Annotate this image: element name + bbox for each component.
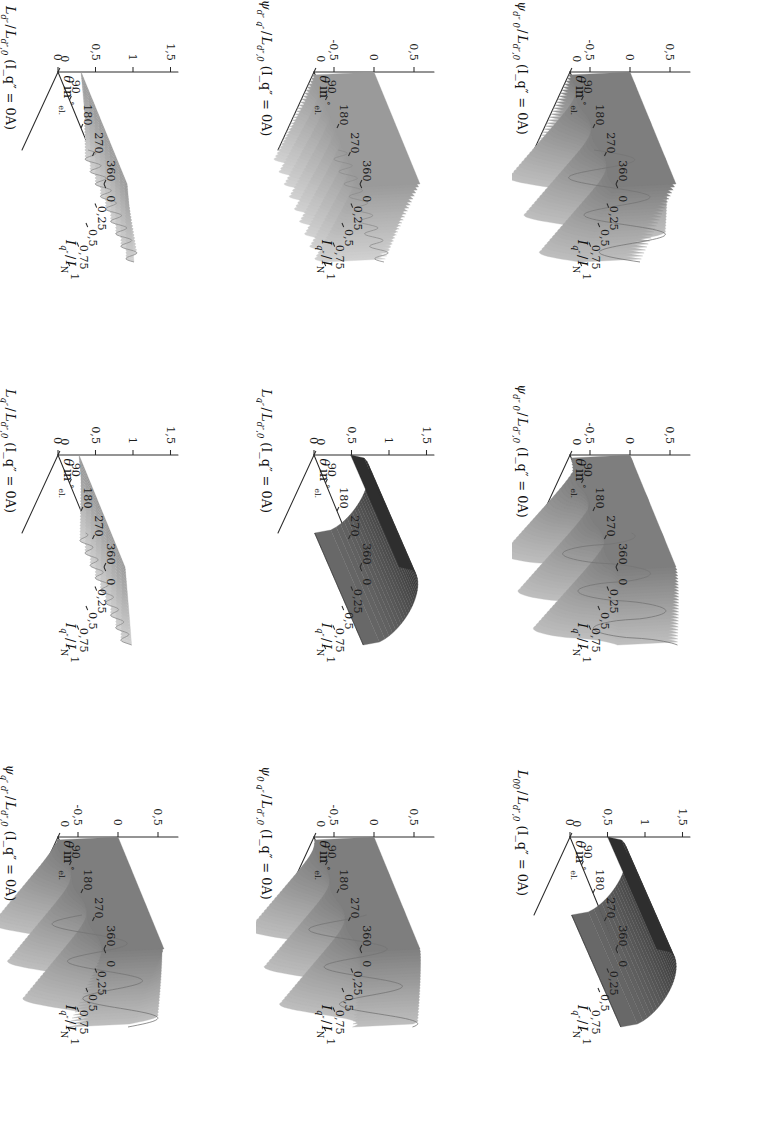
axis-tick-label: 360	[104, 925, 117, 946]
surface-panel-p21: 09018027036000,250,50,751-0,500,5θin°el.…	[256, 0, 512, 383]
axis-tick-label: 1,5	[164, 426, 177, 444]
axis-tick-label: 0,25	[95, 588, 108, 613]
surface-panel-p33: 09018027036000,250,50,751-0,500,5θin°el.…	[0, 765, 256, 1148]
axis-tick-label: 0	[570, 55, 583, 62]
axis-tick-label: 1	[324, 273, 337, 280]
axis-tick-label: 0,25	[607, 588, 620, 613]
axis-tick-label: 0,5	[89, 43, 102, 61]
axis-tick-label: 270	[92, 515, 105, 536]
axis-tick-label: 0	[51, 437, 64, 444]
surface-panel-p13: 09018027036000,250,50,75100,511,5θin°el.…	[512, 765, 768, 1148]
current-tick	[598, 988, 600, 992]
axis-tick-label: 0,5	[407, 809, 420, 827]
surface-panel-container-p22: 09018027036000,250,50,75100,511,5θin°el.…	[256, 383, 512, 766]
surface-mesh	[256, 837, 421, 1027]
axis-tick-label: 0,5	[407, 43, 420, 61]
axis-tick-label: 0	[58, 821, 71, 828]
axis-tick-label: 0	[360, 961, 373, 968]
axis-tick-label: 0	[104, 961, 117, 968]
surface-plot-grid: 09018027036000,250,50,751-0,500,5θin°el.…	[0, 0, 768, 1148]
axis-tick-label: 360	[360, 925, 373, 946]
axis-tick-label: 180	[593, 104, 606, 125]
z-axis-label: ψq″ d″/Ld″,0(I_q″ = 0A)	[0, 765, 18, 901]
axis-tick-label: 1	[68, 656, 81, 663]
axis-tick-label: -0,5	[327, 39, 340, 61]
surface-panel-container-p12: 09018027036000,250,50,751-0,500,5θin°el.…	[512, 383, 768, 766]
axis-tick-label: 1	[68, 1039, 81, 1046]
axis-tick-label: 360	[616, 160, 629, 181]
axis-tick-label: 0	[104, 578, 117, 585]
current-axis-line	[534, 837, 570, 915]
z-axis-label: Lq″/Ld″,0(I_q″ = 0A)	[0, 388, 18, 513]
axis-tick-label: 180	[81, 487, 94, 508]
axis-tick-label: 0,5	[601, 809, 614, 827]
axis-tick-label: 1	[580, 273, 593, 280]
axis-tick-label: 1	[126, 437, 139, 444]
axis-tick-label: 0	[307, 437, 320, 444]
axis-tick-label: 270	[348, 132, 361, 153]
z-axis-label: ψd″ q″/Ld″,0(I_q″ = 0A)	[256, 0, 274, 136]
z-axis-label: ψd″ 0/Ld″,0(I_q″ = 0A)	[512, 384, 530, 517]
current-tick	[86, 606, 88, 610]
current-axis-label: Iq″/IN	[315, 622, 334, 656]
axis-tick-label: 0	[623, 54, 636, 61]
axis-tick-label: 360	[616, 543, 629, 564]
current-axis-label: Iq″/IN	[571, 1004, 590, 1038]
axis-tick-label: 270	[604, 515, 617, 536]
axis-tick-label: 0,25	[351, 971, 364, 996]
axis-tick-label: 0	[111, 819, 124, 826]
axis-tick-label: 270	[92, 132, 105, 153]
axis-tick-label: 360	[360, 160, 373, 181]
current-axis-label: Iq″/IN	[59, 1004, 78, 1038]
axis-tick-label: 1,5	[420, 426, 433, 444]
axis-tick-label: -0,5	[71, 805, 84, 827]
axis-tick-label: 0	[314, 821, 327, 828]
axis-tick-label: 0,5	[151, 809, 164, 827]
current-axis-label: Iq″/IN	[315, 1004, 334, 1038]
surface-panel-p23: 09018027036000,250,50,751-0,500,5θin°el.…	[256, 765, 512, 1148]
axis-tick-label: 0	[367, 54, 380, 61]
axis-tick-label: 1	[68, 273, 81, 280]
surface-panel-p11: 09018027036000,250,50,751-0,500,5θin°el.…	[512, 0, 768, 383]
z-axis-label: Lq″/Ld″,0(I_q″ = 0A)	[256, 388, 274, 513]
axis-tick-label: 0	[570, 438, 583, 445]
axis-tick-label: 0	[616, 195, 629, 202]
axis-tick-label: -0,5	[583, 39, 596, 61]
axis-tick-label: 180	[593, 869, 606, 890]
theta-tick	[314, 833, 316, 837]
axis-tick-label: 0	[563, 819, 576, 826]
axis-tick-label: 0	[616, 961, 629, 968]
axis-tick-label: 0,25	[351, 206, 364, 231]
surface-panel-container-p13: 09018027036000,250,50,75100,511,5θin°el.…	[512, 765, 768, 1148]
axis-tick-label: 180	[337, 869, 350, 890]
surface-panel-container-p23: 09018027036000,250,50,751-0,500,5θin°el.…	[256, 765, 512, 1148]
axis-tick-label: -0,5	[583, 422, 596, 444]
axis-tick-label: 360	[360, 543, 373, 564]
axis-tick-label: 270	[604, 897, 617, 918]
axis-tick-label: 0	[360, 578, 373, 585]
axis-tick-label: 1	[126, 54, 139, 61]
z-axis-label: L00/Ld″,0(I_q″ = 0A)	[512, 769, 530, 896]
axis-tick-label: 1	[580, 656, 593, 663]
axis-tick-label: 0,5	[663, 426, 676, 444]
axis-tick-label: 0	[616, 578, 629, 585]
axis-tick-label: 0	[360, 195, 373, 202]
axis-tick-label: 0	[314, 55, 327, 62]
current-tick	[342, 606, 344, 610]
axis-tick-label: 360	[104, 160, 117, 181]
axis-tick-label: 180	[81, 869, 94, 890]
axis-tick-label: 1	[382, 437, 395, 444]
axis-tick-label: 0	[51, 54, 64, 61]
theta-tick	[570, 68, 572, 72]
z-axis-label: ψ0 q″/Ld″,0(I_q″ = 0A)	[256, 767, 274, 900]
axis-tick-label: 180	[337, 487, 350, 508]
axis-tick-label: 1	[324, 1039, 337, 1046]
axis-tick-label: 0,25	[351, 588, 364, 613]
surface-panel-p22: 09018027036000,250,50,75100,511,5θin°el.…	[256, 383, 512, 766]
current-axis-line	[22, 72, 58, 150]
axis-tick-label: 1	[580, 1039, 593, 1046]
theta-tick	[570, 451, 572, 455]
current-tick	[86, 223, 88, 227]
axis-tick-label: 180	[81, 104, 94, 125]
surface-panel-container-p32: 09018027036000,250,50,75100,511,5θin°el.…	[0, 383, 256, 766]
